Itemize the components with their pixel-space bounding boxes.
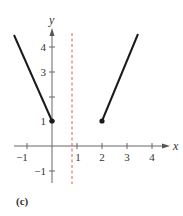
graph: −1 1 2 3 4 4 3 1 −1 x y (c) [0,0,183,216]
x-tick-label: 3 [124,151,130,163]
y-axis-arrow-icon [50,28,55,36]
left-branch-line [14,35,52,121]
x-tick-label: 4 [149,151,155,163]
right-branch-line [102,34,138,121]
right-endpoint-dot [99,118,104,123]
figure-caption: (c) [16,195,29,208]
left-endpoint-dot [49,118,54,123]
y-axis-label: y [48,13,55,27]
y-tick-label: 3 [41,66,47,78]
x-tick-label: 1 [75,151,81,163]
y-tick-label: 1 [41,115,47,127]
x-axis-label: x [172,139,179,153]
x-tick-label: 2 [99,151,105,163]
y-tick-label: −1 [34,165,46,177]
y-tick-label: 4 [41,41,47,53]
x-axis-arrow-icon [162,144,170,149]
x-tick-label: −1 [16,151,28,163]
